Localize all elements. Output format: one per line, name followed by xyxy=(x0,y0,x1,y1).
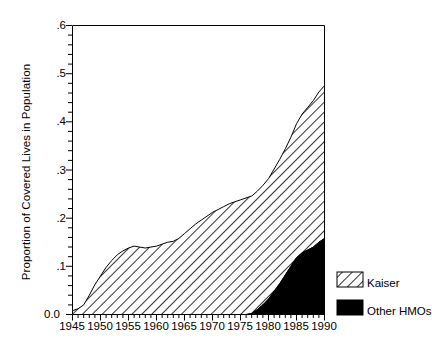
legend-swatch-other-hmos xyxy=(337,300,363,315)
legend-swatch-kaiser xyxy=(337,272,363,287)
x-axis-ticks xyxy=(73,315,325,321)
legend xyxy=(337,272,363,315)
y-major-ticks xyxy=(66,26,72,315)
